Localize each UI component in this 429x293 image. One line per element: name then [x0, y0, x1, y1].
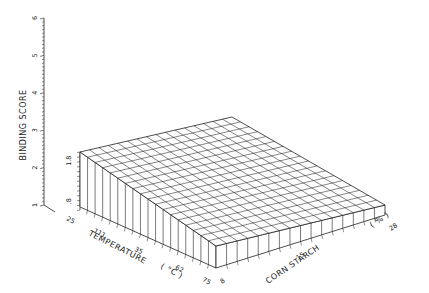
z-tick-label: 1 — [31, 203, 39, 207]
z-tick-label: 3 — [31, 128, 39, 132]
surface-slab: .81.82511135627581528 — [65, 117, 399, 287]
surface-plot: 123456 .81.82511135627581528 BINDING SCO… — [0, 0, 429, 293]
z-tick-label: 4 — [31, 91, 39, 95]
z-inner-tick-label: 1.8 — [65, 156, 73, 166]
x-tick-label: 25 — [65, 215, 76, 226]
y-tick-label: 28 — [388, 221, 399, 232]
z-axis-title: BINDING SCORE — [19, 89, 28, 160]
z-tick-label: 2 — [31, 166, 39, 170]
z-tick-label: 6 — [31, 16, 39, 20]
z-inner-tick-label: .8 — [65, 198, 73, 204]
z-tick-label: 5 — [31, 53, 39, 57]
y-tick-label: 8 — [219, 277, 227, 286]
x-tick-label: 75 — [201, 276, 212, 287]
z-axis: 123456 — [31, 16, 55, 212]
